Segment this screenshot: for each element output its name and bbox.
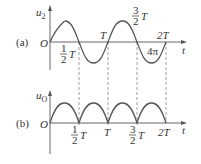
svg-text:T: T: [138, 129, 145, 141]
tick-three-half-T-a: 3 2 T: [132, 4, 148, 27]
panel-b: (b) uO O t 1 2 T T 3 2 T 2T: [16, 89, 187, 154]
panel-a-tag: (a): [16, 36, 29, 49]
tick-2T-a: 2T: [157, 29, 170, 41]
svg-text:2: 2: [72, 134, 78, 146]
svg-text:2: 2: [130, 134, 136, 146]
y-axis-label-a: u2: [36, 6, 46, 21]
tick-T-a: T: [100, 29, 107, 41]
tick-2T-b: 2T: [158, 126, 171, 138]
tick-4pi-a: 4π: [147, 45, 159, 57]
y-axis-arrow-a: [48, 5, 52, 11]
tick-three-half-T-b: 3 2 T: [129, 123, 145, 146]
y-axis-label-b: uO: [36, 89, 48, 104]
y-axis-arrow-b: [48, 90, 52, 96]
waveform-figure: (a) u2 O t 1 2 T T 3 2 T 2T 4π (: [0, 0, 201, 164]
origin-label-b: O: [40, 118, 48, 130]
svg-text:T: T: [69, 48, 76, 60]
tick-half-T-a: 1 2 T: [60, 42, 76, 65]
svg-text:T: T: [141, 10, 148, 22]
x-axis-label-a: t: [182, 44, 186, 56]
tick-T-b: T: [104, 126, 111, 138]
tick-half-T-b: 1 2 T: [71, 123, 87, 146]
panel-b-tag: (b): [16, 117, 29, 130]
svg-text:2: 2: [61, 53, 67, 65]
svg-text:T: T: [80, 129, 87, 141]
x-axis-label-b: t: [182, 124, 186, 136]
origin-label-a: O: [40, 37, 48, 49]
panel-a: (a) u2 O t 1 2 T T 3 2 T 2T 4π: [16, 4, 187, 70]
svg-text:2: 2: [133, 15, 139, 27]
